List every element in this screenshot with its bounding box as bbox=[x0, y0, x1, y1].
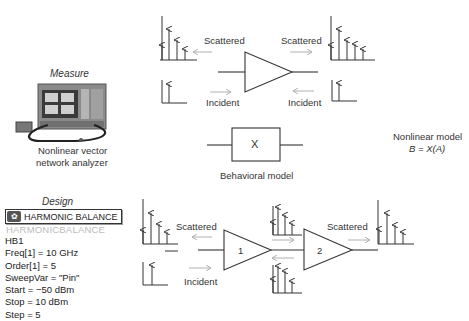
amplifier-1-label: 1 bbox=[238, 245, 243, 256]
label-scattered-right-bottom: Scattered bbox=[327, 221, 368, 232]
harmonic-balance-icon: ✿ bbox=[7, 211, 21, 222]
amplifier-1 bbox=[198, 230, 304, 270]
design-title: Design bbox=[42, 196, 73, 207]
harmonic-balance-label: HARMONIC BALANCE bbox=[24, 212, 118, 222]
harmonic-balance-component[interactable]: ✿ HARMONIC BALANCE bbox=[5, 209, 122, 224]
network-analyzer-image bbox=[16, 84, 106, 142]
spectrum-scattered-left-bottom bbox=[143, 199, 178, 244]
amplifier-2 bbox=[304, 229, 378, 270]
param-order: Order[1] = 5 bbox=[5, 260, 79, 272]
label-scattered-left-bottom: Scattered bbox=[176, 221, 217, 232]
behavioral-model-caption: Behavioral model bbox=[220, 170, 293, 181]
component-name-ghost: HARMONICBALANCE bbox=[6, 224, 105, 235]
amplifier-2-label: 2 bbox=[317, 245, 322, 256]
instrument-label-line1: Nonlinear vector bbox=[38, 145, 107, 156]
spectrum-interstage-reverse bbox=[273, 265, 302, 293]
label-incident-left-bottom: Incident bbox=[184, 276, 217, 287]
label-incident-left-top: Incident bbox=[206, 97, 239, 108]
measure-title: Measure bbox=[50, 68, 89, 79]
label-scattered-left-top: Scattered bbox=[204, 35, 245, 46]
spectrum-scattered-right-top bbox=[331, 16, 375, 60]
param-step: Step = 5 bbox=[5, 309, 79, 321]
label-incident-right-top: Incident bbox=[288, 97, 321, 108]
spectrum-interstage-forward bbox=[273, 206, 302, 235]
param-sweepvar: SweepVar = "Pin" bbox=[5, 272, 79, 284]
param-stop: Stop = 10 dBm bbox=[5, 296, 79, 308]
spectrum-incident-left-top bbox=[162, 80, 187, 103]
param-freq: Freq[1] = 10 GHz bbox=[5, 247, 79, 259]
spectrum-scattered-right-bottom bbox=[378, 200, 414, 244]
instance-name: HB1 bbox=[5, 235, 79, 247]
spectrum-scattered-left-top bbox=[160, 16, 197, 60]
design-parameters: HB1 Freq[1] = 10 GHz Order[1] = 5 SweepV… bbox=[5, 235, 79, 321]
spectrum-incident-left-bottom bbox=[143, 262, 168, 285]
instrument-label-line2: network analyzer bbox=[36, 157, 108, 168]
spectrum-incident-right-top bbox=[332, 80, 357, 101]
nonlinear-model-equation: B = X(A) bbox=[409, 143, 445, 154]
param-start: Start = −50 dBm bbox=[5, 284, 79, 296]
label-scattered-right-top: Scattered bbox=[281, 35, 322, 46]
behavioral-box-label: X bbox=[251, 138, 258, 150]
nonlinear-model-title: Nonlinear model bbox=[393, 131, 462, 142]
amplifier-top bbox=[218, 52, 318, 92]
